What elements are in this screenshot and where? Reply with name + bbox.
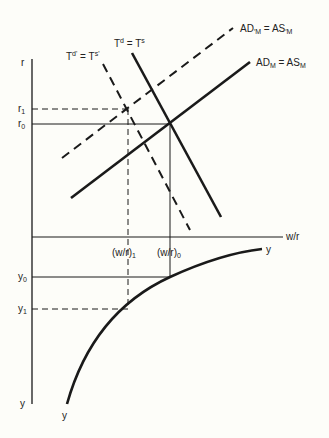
- t-label: Td = Ts: [114, 37, 145, 49]
- t-shifted-curve: [103, 64, 190, 230]
- wr0-label: (w/r)0: [157, 247, 181, 259]
- t-shifted-label: Td' = Ts': [66, 50, 100, 62]
- wr1-label: (w/r)1: [112, 247, 136, 259]
- production-curve: [67, 249, 262, 404]
- y1-label: y1: [18, 303, 27, 315]
- y0-label: y0: [18, 271, 27, 283]
- r1-label: r1: [18, 103, 25, 115]
- w-r-axis-label: w/r: [285, 231, 300, 242]
- production-curve-end-label: y: [266, 244, 271, 255]
- ad-as-shifted-label: AD′M = AS′M: [240, 23, 293, 35]
- r0-label: r0: [18, 118, 25, 130]
- ad-as-label: ADM = ASM: [256, 57, 306, 69]
- production-curve-bottom-label: y: [62, 410, 67, 421]
- diagram-canvas: r w/r y y y r1 r0 y0 y1 (w/r)1 (w/r)0 AD…: [0, 0, 329, 438]
- t-curve: [132, 53, 221, 217]
- y-axis-label: y: [20, 398, 25, 409]
- r-axis-label: r: [21, 57, 25, 68]
